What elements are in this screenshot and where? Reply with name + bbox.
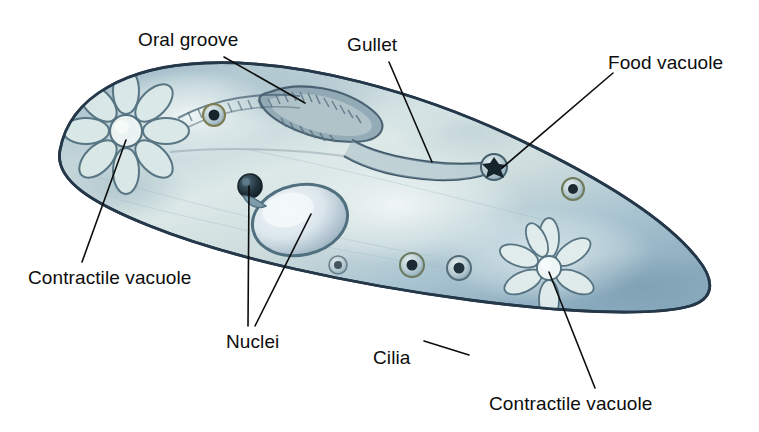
food-vacuole: [329, 256, 347, 274]
paramecium-diagram-figure: Oral groove Gullet Food vacuole Contract…: [0, 0, 759, 432]
label-cilia: Cilia: [373, 348, 410, 367]
label-contractile-vacuole-bottom: Contractile vacuole: [489, 394, 652, 413]
label-oral-groove: Oral groove: [138, 30, 238, 49]
leader-line-cilia: [424, 341, 469, 355]
food-vacuole: [447, 256, 471, 280]
label-gullet: Gullet: [347, 35, 397, 54]
food-vacuole: [203, 104, 225, 126]
leader-line-food-vacuole: [502, 73, 613, 168]
contractile-vacuole-star-left: [63, 68, 189, 194]
food-vacuole: [400, 253, 424, 277]
label-food-vacuole: Food vacuole: [608, 53, 723, 72]
label-nuclei: Nuclei: [226, 332, 279, 351]
label-contractile-vacuole-left: Contractile vacuole: [28, 268, 191, 287]
food-vacuole: [562, 178, 584, 200]
leader-line-nuclei: [248, 186, 249, 326]
